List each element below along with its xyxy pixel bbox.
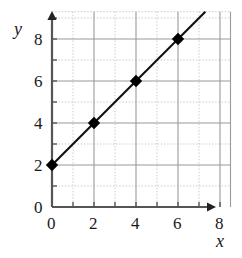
x-axis-line — [52, 202, 216, 211]
x-axis-tick-label: 0 — [47, 215, 56, 232]
trend-line — [52, 12, 205, 165]
y-axis-arrowhead — [47, 11, 56, 20]
y-axis-line — [47, 11, 56, 207]
y-axis-tick-label: 0 — [34, 199, 43, 216]
y-axis-title: y — [14, 20, 22, 38]
x-axis-tick-label: 4 — [131, 215, 140, 232]
x-axis-tick-label: 6 — [173, 215, 182, 232]
x-axis-arrowhead — [207, 202, 216, 211]
x-axis-tick-label: 8 — [215, 215, 224, 232]
y-axis-tick-label: 8 — [34, 31, 43, 48]
y-axis-tick-label: 6 — [34, 73, 43, 90]
line-graph-figure: 0246802468 y x — [0, 0, 242, 258]
grid-minor-lines — [52, 12, 231, 207]
x-axis-title: x — [216, 232, 224, 250]
grid-major-lines — [52, 12, 231, 207]
y-axis-tick-label: 4 — [34, 115, 43, 132]
y-axis-tick-label: 2 — [34, 157, 43, 174]
data-line — [52, 12, 205, 165]
x-axis-tick-label: 2 — [89, 215, 98, 232]
